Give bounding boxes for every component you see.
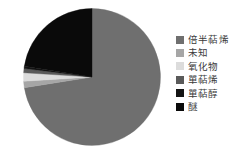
legend-swatch-sesquiterpene [176, 36, 184, 44]
pie-slice-group [23, 9, 160, 146]
pie-slice[interactable] [24, 9, 92, 78]
chart-legend: 倍半萜烯 未知 氧化物 單萜烯 單萜醇 醚 [176, 33, 244, 117]
legend-item-5[interactable]: 醚 [176, 100, 244, 113]
legend-label-monoterpene: 單萜烯 [188, 73, 219, 86]
chart-plot-area [0, 0, 175, 152]
legend-label-sesquiterpene: 倍半萜烯 [188, 33, 229, 46]
legend-label-oxide: 氧化物 [188, 60, 219, 73]
legend-label-monoterpenol: 單萜醇 [188, 87, 219, 100]
pie-svg [23, 8, 161, 146]
legend-item-1[interactable]: 未知 [176, 46, 244, 59]
legend-swatch-monoterpene [176, 76, 184, 84]
legend-swatch-unknown [176, 49, 184, 57]
legend-item-0[interactable]: 倍半萜烯 [176, 33, 244, 46]
pie-graphic [23, 8, 161, 146]
legend-swatch-oxide [176, 62, 184, 70]
legend-item-3[interactable]: 單萜烯 [176, 73, 244, 86]
legend-label-unknown: 未知 [188, 46, 208, 59]
legend-swatch-monoterpenol [176, 89, 184, 97]
legend-swatch-ether [176, 103, 184, 111]
legend-item-2[interactable]: 氧化物 [176, 60, 244, 73]
legend-item-4[interactable]: 單萜醇 [176, 87, 244, 100]
legend-label-ether: 醚 [188, 100, 198, 113]
pie-chart-screenshot: 倍半萜烯 未知 氧化物 單萜烯 單萜醇 醚 [0, 0, 247, 152]
